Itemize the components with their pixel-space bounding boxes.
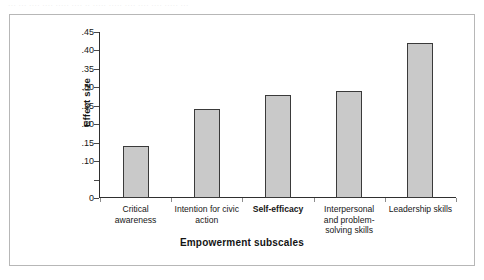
x-axis-category-label: Intention for civicaction	[167, 204, 246, 225]
y-axis-tick-mark	[94, 198, 99, 199]
x-axis-tick-mark	[242, 198, 243, 202]
x-axis-category-label-line: Interpersonal	[310, 204, 389, 215]
bar	[123, 146, 149, 198]
x-axis-title: Empowerment subscales	[10, 237, 474, 248]
x-axis-category-label-line: Leadership skills	[381, 204, 460, 215]
bar	[407, 43, 433, 198]
x-axis-tick-mark	[171, 198, 172, 202]
x-axis-category-label-line: Critical	[96, 204, 175, 215]
y-axis-tick-mark	[94, 124, 99, 125]
y-axis-tick-mark	[94, 161, 99, 162]
y-axis-tick-label: .20	[60, 120, 94, 129]
bar	[336, 91, 362, 198]
x-axis-tick-mark	[314, 198, 315, 202]
figure-frame: Effect size .45.40.35.30.25.20.15.100 Cr…	[9, 14, 475, 266]
y-axis-tick-label: 0	[60, 194, 94, 203]
y-axis-tick-mark	[94, 50, 99, 51]
x-axis-category-label-line: Intention for civic	[167, 204, 246, 215]
x-axis-category-label-line: action	[167, 215, 246, 226]
bar-slot	[385, 32, 456, 198]
bar-slot	[171, 32, 242, 198]
x-axis-category-label-line: Self-efficacy	[238, 204, 317, 215]
x-axis-category-label: Leadership skills	[381, 204, 460, 215]
y-axis-tick-label: .15	[60, 138, 94, 147]
y-axis-tick-mark	[94, 32, 99, 33]
bar-chart: Effect size .45.40.35.30.25.20.15.100 Cr…	[10, 15, 474, 265]
x-axis-category-label-line: solving skills	[310, 225, 389, 236]
y-axis-tick-label: .35	[60, 64, 94, 73]
x-axis-category-label: Interpersonaland problem-solving skills	[310, 204, 389, 236]
y-axis-tick-labels: .45.40.35.30.25.20.15.100	[52, 15, 94, 265]
y-axis-tick-mark	[94, 69, 99, 70]
y-axis-tick-mark	[94, 143, 99, 144]
x-axis-tick-mark	[100, 198, 101, 202]
bar-series	[100, 32, 456, 198]
bar	[194, 109, 220, 198]
y-axis-tick-label: .25	[60, 101, 94, 110]
y-axis-tick-mark	[94, 87, 99, 88]
y-axis-tick-mark	[94, 106, 99, 107]
x-axis-tick-mark	[456, 198, 457, 202]
y-axis-tick-label: .40	[60, 46, 94, 55]
bar-slot	[314, 32, 385, 198]
x-axis-category-label: Criticalawareness	[96, 204, 175, 225]
y-axis-tick-label: .10	[60, 157, 94, 166]
x-axis-category-label: Self-efficacy	[238, 204, 317, 215]
bar-slot	[100, 32, 171, 198]
bar-slot	[242, 32, 313, 198]
x-axis-category-label-line: awareness	[96, 215, 175, 226]
x-axis-category-label-line: and problem-	[310, 215, 389, 226]
y-axis-tick-label: .30	[60, 83, 94, 92]
y-axis-tick-mark	[94, 180, 99, 181]
y-axis-tick-label: .45	[60, 28, 94, 37]
x-axis-tick-mark	[385, 198, 386, 202]
bar	[265, 95, 291, 198]
cut-off-caption-fragment: ··· ··· ···· ···· ····· ···· ·· ····· ··…	[0, 0, 484, 11]
